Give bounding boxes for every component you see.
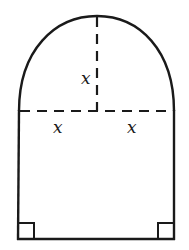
label-radius-right: x [127, 117, 137, 137]
right-angle-marker-left [19, 223, 34, 239]
window-diagram: x x x [0, 0, 189, 250]
semicircle-arc [19, 16, 174, 111]
label-radius-left: x [53, 117, 63, 137]
label-radius-vertical: x [81, 68, 91, 88]
right-angle-marker-right [158, 223, 174, 239]
left-side [18, 110, 19, 240]
